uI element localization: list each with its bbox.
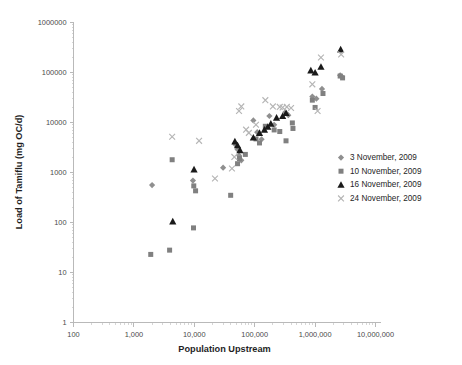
x-tick-label: 10,000,000 <box>357 330 394 339</box>
legend-marker-diamond <box>338 155 344 161</box>
data-point <box>169 134 175 140</box>
legend-item[interactable]: 16 November, 2009 <box>337 180 422 189</box>
legend-item-label: 10 November, 2009 <box>350 167 422 176</box>
data-point <box>169 218 176 225</box>
legend-item[interactable]: 10 November, 2009 <box>339 167 422 176</box>
data-point <box>253 122 259 128</box>
data-point <box>288 105 294 111</box>
data-point <box>170 157 175 162</box>
x-tick-label: 1,000 <box>125 330 144 339</box>
data-point <box>290 120 295 125</box>
data-point <box>337 46 344 53</box>
series-3 <box>169 46 344 225</box>
legend-marker-square <box>339 169 344 174</box>
data-point <box>196 138 202 144</box>
chart-container: 1101001000100001000001000000 1001,00010,… <box>0 0 462 365</box>
data-point <box>340 75 345 80</box>
x-tick-label: 1,000,000 <box>299 330 332 339</box>
series-2 <box>148 74 345 257</box>
x-axis-tick-labels: 1001,00010,000100,0001,000,00010,000,000 <box>67 330 394 339</box>
data-point <box>191 183 196 188</box>
minor-tick-marks <box>72 25 373 325</box>
data-point <box>246 130 252 136</box>
y-tick-label: 100 <box>54 218 66 227</box>
data-point <box>318 55 324 61</box>
y-tick-label: 100000 <box>42 68 67 77</box>
series-4 <box>169 52 344 182</box>
data-point <box>272 127 277 132</box>
data-point <box>167 248 172 253</box>
legend-item-label: 24 November, 2009 <box>350 194 422 203</box>
y-tick-label: 1000 <box>50 168 66 177</box>
data-point <box>237 156 242 161</box>
data-point <box>273 114 280 121</box>
data-point <box>235 161 240 166</box>
x-axis-title: Population Upstream <box>178 344 270 354</box>
plot-axes <box>70 23 381 327</box>
data-point <box>284 138 289 143</box>
legend-item[interactable]: 24 November, 2009 <box>338 194 422 203</box>
data-point <box>190 177 196 183</box>
data-points-layer <box>148 46 345 257</box>
data-point <box>191 225 196 230</box>
y-tick-label: 1 <box>62 318 66 327</box>
data-point <box>266 113 272 119</box>
x-tick-label: 100,000 <box>241 330 268 339</box>
chart-legend: 3 November, 200910 November, 200916 Nove… <box>337 153 422 203</box>
data-point <box>149 182 155 188</box>
data-point <box>317 63 324 70</box>
data-point <box>262 97 268 103</box>
legend-item-label: 16 November, 2009 <box>350 180 422 189</box>
legend-marker-cross <box>338 196 344 202</box>
y-tick-label: 1000000 <box>38 18 67 27</box>
data-point <box>190 166 197 173</box>
x-tick-label: 10,000 <box>183 330 206 339</box>
major-tick-marks <box>70 23 376 327</box>
x-tick-label: 100 <box>67 330 79 339</box>
data-point <box>277 129 282 134</box>
data-point <box>320 91 325 96</box>
data-point <box>309 81 315 87</box>
legend-item[interactable]: 3 November, 2009 <box>338 153 417 162</box>
data-point <box>310 98 315 103</box>
data-point <box>148 252 153 257</box>
y-tick-label: 10000 <box>46 118 67 127</box>
data-point <box>270 103 276 109</box>
legend-marker-triangle <box>337 181 344 188</box>
data-point <box>231 154 237 160</box>
data-point <box>193 188 198 193</box>
y-axis-tick-labels: 1101001000100001000001000000 <box>38 18 67 327</box>
data-point <box>229 166 235 172</box>
data-point <box>212 176 218 182</box>
data-point <box>315 108 321 114</box>
data-point <box>243 152 248 157</box>
y-axis-title: Load of Tamiflu (mg OC/d) <box>14 115 24 230</box>
scatter-plot: 1101001000100001000001000000 1001,00010,… <box>0 0 462 365</box>
y-tick-label: 10 <box>58 268 66 277</box>
data-point <box>220 165 226 171</box>
legend-item-label: 3 November, 2009 <box>350 153 417 162</box>
data-point <box>257 140 262 145</box>
data-point <box>284 104 290 110</box>
data-point <box>290 126 295 131</box>
data-point <box>228 193 233 198</box>
